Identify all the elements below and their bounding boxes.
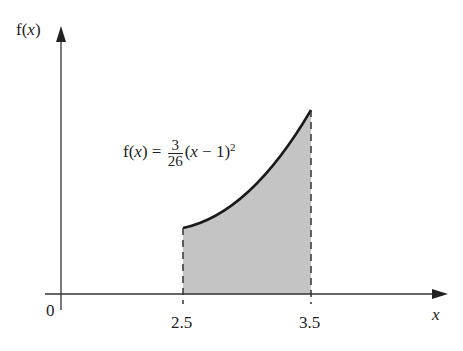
y-axis-label: f(x) [16,21,41,38]
x-axis-label: x [432,306,440,323]
plot-canvas [0,0,463,351]
x-axis-arrow-icon [432,289,448,299]
tick-label-2-5: 2.5 [171,314,192,331]
y-axis-arrow-icon [56,26,66,42]
tick-label-3-5: 3.5 [299,314,320,331]
origin-label: 0 [46,302,55,319]
fraction: 326 [168,138,183,169]
chart-figure: f(x) x 0 2.5 3.5 f(x) = 326(x − 1)2 [0,0,463,351]
function-equation: f(x) = 326(x − 1)2 [123,138,236,169]
